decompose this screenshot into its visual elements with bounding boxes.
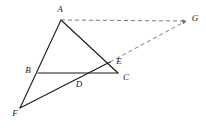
- vertex-label-F: F: [11, 108, 18, 118]
- figure-canvas: A G E B D C F: [0, 0, 206, 128]
- segment-A-F: [20, 20, 61, 108]
- geometry-diagram: A G E B D C F: [0, 0, 206, 128]
- vertex-label-C: C: [123, 72, 130, 82]
- segment-A-C: [61, 20, 118, 73]
- solid-segments-group: [20, 20, 118, 108]
- vertex-label-E: E: [115, 56, 122, 66]
- vertex-label-G: G: [192, 13, 199, 23]
- vertex-label-D: D: [75, 79, 83, 89]
- segment-A-G: [61, 20, 186, 21]
- dashed-segments-group: [61, 20, 186, 62]
- vertex-label-A: A: [56, 4, 63, 14]
- segment-F-E: [20, 62, 110, 108]
- vertex-label-B: B: [25, 65, 31, 75]
